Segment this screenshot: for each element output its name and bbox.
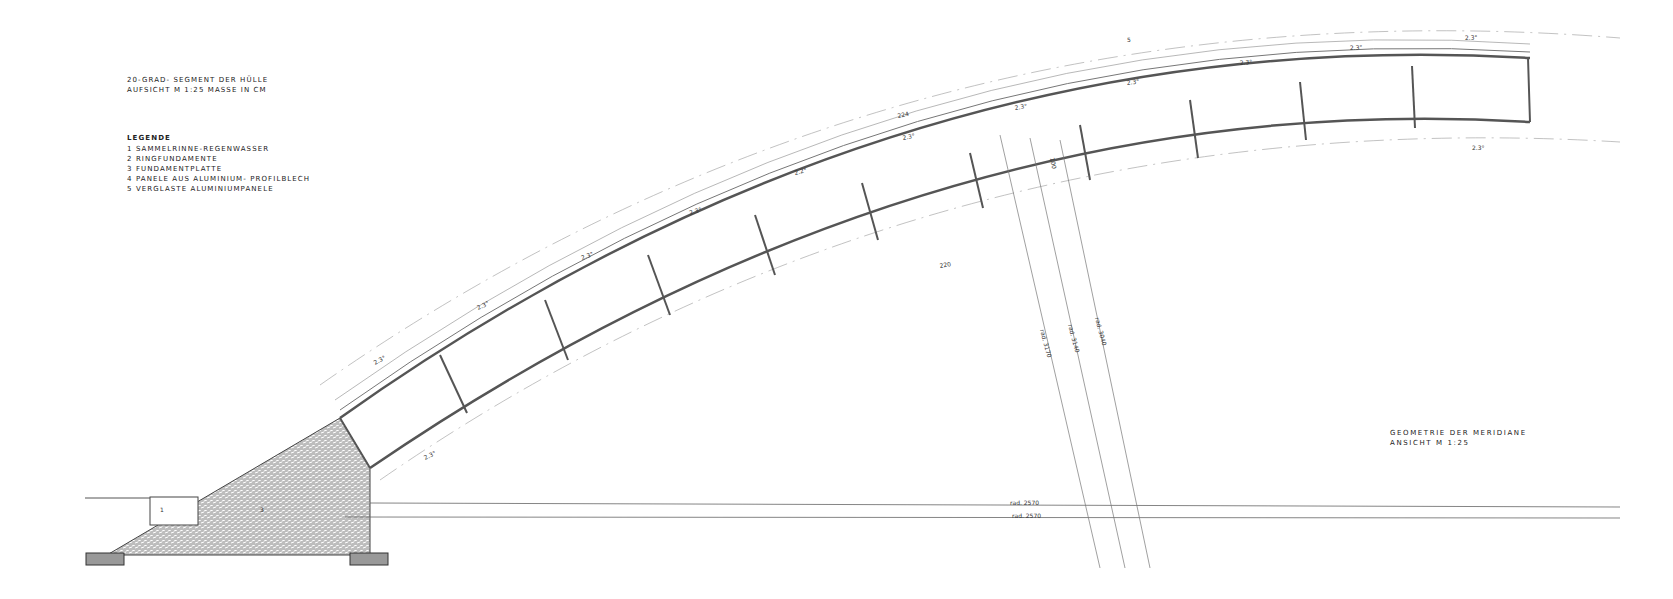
svg-text:2.3°: 2.3° <box>476 299 490 310</box>
svg-text:2.3°: 2.3° <box>1465 34 1478 41</box>
legend-item: 3 FUNDAMENTPLATTE <box>127 164 310 174</box>
legend-item: 5 VERGLASTE ALUMINIUMPANELE <box>127 184 310 194</box>
geometry-line-2: ANSICHT M 1:25 <box>1390 438 1527 448</box>
svg-text:2.3°: 2.3° <box>1239 58 1252 66</box>
svg-text:2.3°: 2.3° <box>1350 43 1363 51</box>
svg-text:rad. 2570: rad. 2570 <box>1010 499 1039 506</box>
svg-text:rad. 3040: rad. 3040 <box>1094 316 1108 346</box>
legend-heading: LEGENDE <box>127 133 310 143</box>
title-line-2: AUFSICHT M 1:25 MASSE IN CM <box>127 85 268 95</box>
legend: LEGENDE 1 SAMMELRINNE-REGENWASSER 2 RING… <box>127 133 310 194</box>
svg-text:2.3°: 2.3° <box>1126 78 1139 86</box>
svg-text:5: 5 <box>1127 36 1131 43</box>
svg-text:2.2°: 2.2° <box>794 166 808 176</box>
svg-text:220: 220 <box>939 260 952 269</box>
svg-text:2.3°: 2.3° <box>372 354 386 366</box>
svg-text:3: 3 <box>260 506 264 513</box>
svg-text:rad. 3140: rad. 3140 <box>1067 323 1081 353</box>
ring-foundation-right <box>350 553 388 565</box>
svg-text:1: 1 <box>160 506 164 513</box>
title-block: 20-GRAD- SEGMENT DER HÜLLE AUFSICHT M 1:… <box>127 75 268 95</box>
legend-item: 2 RINGFUNDAMENTE <box>127 154 310 164</box>
title-line-1: 20-GRAD- SEGMENT DER HÜLLE <box>127 75 268 85</box>
svg-text:2.3°: 2.3° <box>1472 144 1485 151</box>
svg-text:2.3°: 2.3° <box>902 132 916 141</box>
svg-text:100: 100 <box>1049 157 1058 170</box>
svg-text:2.3°: 2.3° <box>580 250 594 261</box>
svg-text:rad. 3170: rad. 3170 <box>1039 328 1053 358</box>
geometry-block: GEOMETRIE DER MERIDIANE ANSICHT M 1:25 <box>1390 428 1527 448</box>
svg-text:224: 224 <box>897 110 910 119</box>
svg-text:2.3°: 2.3° <box>1014 102 1027 111</box>
geometry-line-1: GEOMETRIE DER MERIDIANE <box>1390 428 1527 438</box>
legend-item: 1 SAMMELRINNE-REGENWASSER <box>127 144 310 154</box>
foundation-plate <box>107 418 370 555</box>
ring-foundation-left <box>86 553 124 565</box>
svg-text:2.3°: 2.3° <box>422 449 436 461</box>
gutter <box>150 497 198 525</box>
svg-text:rad. 2570: rad. 2570 <box>1012 512 1041 519</box>
legend-item: 4 PANELE AUS ALUMINIUM- PROFILBLECH <box>127 174 310 184</box>
